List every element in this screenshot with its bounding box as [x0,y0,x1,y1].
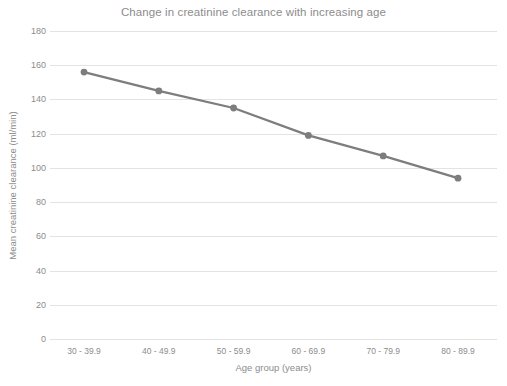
chart-container: Change in creatinine clearance with incr… [0,0,507,386]
series-polyline [84,72,458,178]
y-axis-tick-label: 120 [4,129,46,138]
x-axis-tick-label: 70 - 79.9 [366,346,400,356]
y-axis-tick-label: 100 [4,163,46,172]
chart-title: Change in creatinine clearance with incr… [0,6,507,18]
x-axis-tick-label: 50 - 59.9 [217,346,251,356]
data-point-marker [155,87,162,94]
data-point-marker [230,105,237,112]
data-point-marker [305,132,312,139]
y-axis-tick-label: 40 [4,266,46,275]
x-axis-tick-label: 30 - 39.9 [67,346,101,356]
y-axis-tick-label: 80 [4,198,46,207]
y-axis-tick-label: 140 [4,95,46,104]
data-series-line [50,31,497,339]
y-axis-tick-label: 20 [4,300,46,309]
y-axis-tick-label: 60 [4,232,46,241]
x-axis-tick-label: 80 - 89.9 [441,346,475,356]
data-point-marker [455,175,462,182]
y-axis-tick-label: 180 [4,27,46,36]
gridline [50,339,497,340]
y-axis-tick-label: 160 [4,61,46,70]
x-axis-tick-label: 60 - 69.9 [292,346,326,356]
data-point-marker [81,69,88,76]
x-axis-title: Age group (years) [50,362,497,373]
data-point-marker [380,153,387,160]
x-axis-tick-label: 40 - 49.9 [142,346,176,356]
plot-area: 020406080100120140160180 [50,31,497,339]
y-axis-tick-label: 0 [4,335,46,344]
y-axis-title: Mean creatinine clearance (ml/min) [4,31,20,339]
